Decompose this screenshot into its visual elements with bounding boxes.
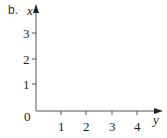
origin-label: 0 (24, 110, 31, 123)
x-tick-label-3: 3 (109, 120, 116, 133)
x-tick-label-1: 1 (58, 120, 65, 133)
y-tick-label-1: 1 (23, 78, 30, 91)
vertical-axis-label: x (27, 4, 33, 17)
x-tick-label-2: 2 (83, 120, 90, 133)
x-tick-label-4: 4 (134, 120, 141, 133)
vertical-axis-arrow-icon (33, 4, 39, 13)
horizontal-axis-label: y (153, 113, 159, 126)
y-tick-label-3: 3 (23, 27, 30, 40)
y-tick-label-2: 2 (23, 53, 30, 66)
